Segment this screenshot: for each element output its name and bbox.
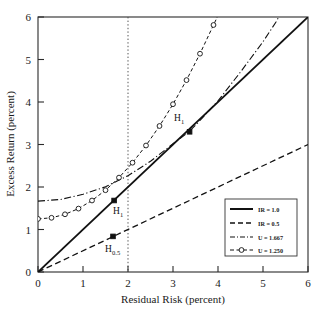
x-tick-label-0: 0: [35, 277, 41, 289]
svg-text:H: H: [113, 206, 120, 216]
svg-text:1: 1: [120, 211, 123, 218]
chart-legend: IR = 1.0 IR = 0.5 U = 1.667 U = 1.250: [225, 199, 297, 256]
series-line-u-1-250: [38, 7, 222, 219]
y-tick-label-4: 4: [26, 96, 32, 108]
y-tick-label-3: 3: [26, 139, 32, 151]
legend-label-ir-1-0: IR = 1.0: [258, 206, 279, 213]
y-tick-label-1: 1: [26, 224, 32, 236]
y-tick-label-6: 6: [26, 11, 32, 23]
y-tick-label-2: 2: [26, 181, 32, 193]
legend-label-u-1-250: U = 1.250: [258, 247, 283, 254]
svg-text:H: H: [174, 113, 181, 123]
series-markers-u-1-250: [36, 23, 216, 222]
x-tick-label-1: 1: [80, 277, 86, 289]
x-axis-title: Residual Risk (percent): [121, 293, 225, 306]
y-tick-label-0: 0: [26, 266, 32, 278]
svg-text:1: 1: [181, 118, 184, 125]
legend-swatch-circle-marker: [239, 248, 244, 253]
x-tick-label-2: 2: [125, 277, 131, 289]
annotation-marker-h1-upper: [187, 130, 192, 135]
svg-text:0.5: 0.5: [112, 249, 120, 256]
series-line-u-1-667: [38, 13, 281, 201]
annotation-label-h05: H 0.5: [105, 244, 120, 256]
x-axis-ticks: [38, 266, 308, 272]
chart-svg: 0 1 2 3 4 5 6 0 1 2 3 4 5 6 Residual Ris…: [0, 0, 324, 318]
svg-text:H: H: [105, 244, 112, 254]
x-tick-label-3: 3: [170, 277, 176, 289]
legend-label-ir-0-5: IR = 0.5: [258, 220, 279, 227]
y-tick-label-5: 5: [26, 54, 32, 66]
annotation-label-h1-upper: H 1: [174, 113, 184, 125]
annotation-marker-h05: [111, 234, 116, 239]
x-tick-label-6: 6: [305, 277, 311, 289]
y-axis-ticks: [38, 17, 44, 272]
x-tick-label-4: 4: [215, 277, 221, 289]
x-tick-label-5: 5: [260, 277, 266, 289]
annotation-marker-h1-lower: [112, 198, 117, 203]
legend-label-u-1-667: U = 1.667: [258, 234, 283, 241]
chart-figure: 0 1 2 3 4 5 6 0 1 2 3 4 5 6 Residual Ris…: [0, 0, 324, 318]
y-axis-title: Excess Return (percent): [4, 91, 17, 197]
annotation-label-h1-lower: H 1: [113, 206, 123, 218]
